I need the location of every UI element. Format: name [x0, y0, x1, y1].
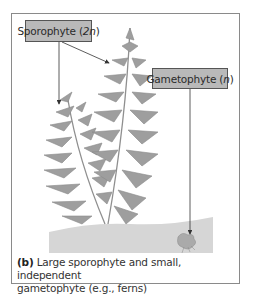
sporophyte-fern	[44, 28, 158, 224]
gametophyte-label-close: )	[230, 73, 234, 85]
sporophyte-arrow-right	[62, 42, 109, 63]
sporophyte-label-text: Sporophyte (	[17, 25, 82, 37]
gametophyte-label: Gametophyte (n)	[152, 68, 228, 89]
caption-line-1: Large sporophyte and small, independent	[17, 256, 181, 281]
sporophyte-label: Sporophyte (2n)	[25, 20, 92, 42]
sporophyte-label-close: )	[96, 25, 100, 37]
figure-caption: (b) Large sporophyte and small, independ…	[17, 256, 237, 294]
caption-line-2: gametophyte (e.g., ferns)	[17, 282, 147, 294]
sporophyte-ploidy: 2n	[83, 25, 96, 37]
fern-illustration	[0, 0, 254, 294]
gametophyte-label-text: Gametophyte (	[146, 73, 223, 85]
panel-label: (b)	[17, 256, 34, 268]
